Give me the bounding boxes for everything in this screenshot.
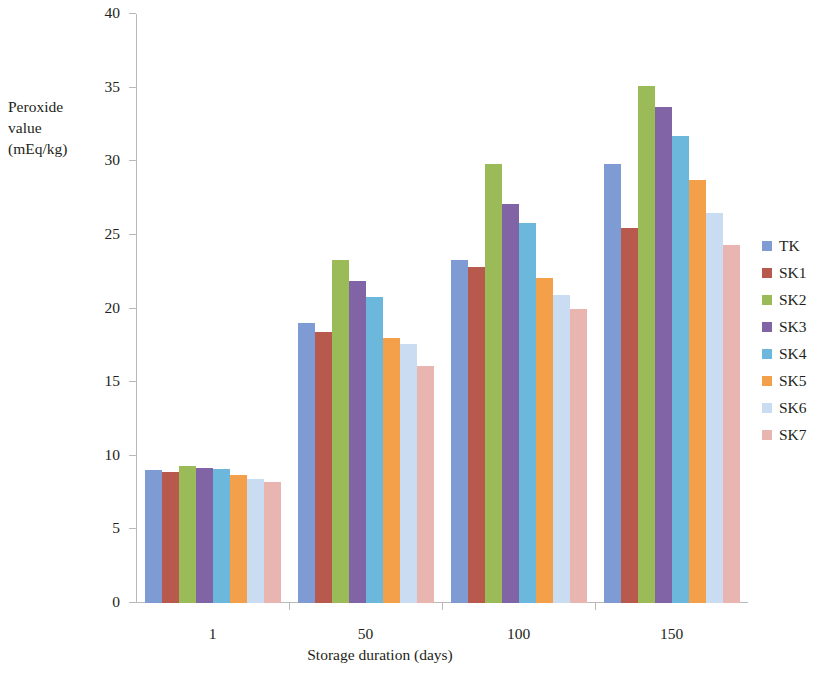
y-axis-title-line-3: (mEq/kg) [8,138,108,159]
bar-sk5-150 [689,180,706,603]
legend-item-sk1[interactable]: SK1 [762,259,836,286]
legend-item-sk4[interactable]: SK4 [762,340,836,367]
bar-sk6-50 [400,344,417,603]
bar-sk5-100 [536,278,553,603]
y-axis-tick: 30 [129,160,136,161]
y-axis-title-line-2: value [8,117,108,138]
plot-area: 0510152025303540 150100150 [136,14,748,603]
legend-item-sk7[interactable]: SK7 [762,421,836,448]
bar-tk-50 [298,323,315,603]
bar-sk6-150 [706,213,723,603]
y-axis-title: Peroxide value (mEq/kg) [8,96,108,159]
legend-label: SK1 [779,264,807,281]
y-axis-tick: 15 [129,381,136,382]
legend-swatch-icon [762,376,772,386]
legend-label: SK6 [779,399,807,416]
bar-sk2-1 [179,466,196,603]
legend-swatch-icon [762,430,772,440]
x-axis-tick [595,603,596,610]
legend-item-tk[interactable]: TK [762,232,836,259]
y-axis-tick-label: 20 [105,298,121,317]
bar-sk4-1 [213,469,230,603]
y-axis-tick-label: 30 [105,150,121,169]
bar-sk2-100 [485,164,502,603]
bar-sk2-150 [638,86,655,603]
bar-sk3-50 [349,281,366,603]
bar-sk3-100 [502,204,519,603]
y-axis-tick-label: 40 [105,3,121,22]
y-axis-tick: 5 [129,528,136,529]
bar-sk3-1 [196,468,213,603]
y-axis-tick: 35 [129,87,136,88]
bar-sk3-150 [655,107,672,603]
x-axis-category-label: 150 [612,625,732,643]
y-axis-tick-label: 10 [105,445,121,464]
bar-sk4-100 [519,223,536,603]
bar-sk1-100 [468,267,485,603]
legend-item-sk6[interactable]: SK6 [762,394,836,421]
legend-item-sk3[interactable]: SK3 [762,313,836,340]
bar-sk5-50 [383,338,400,603]
x-axis-tick [289,603,290,610]
legend-label: SK5 [779,372,807,389]
legend-label: TK [779,237,800,254]
y-axis-tick: 10 [129,455,136,456]
bar-sk2-50 [332,260,349,603]
bar-sk6-100 [553,295,570,603]
y-axis-title-line-1: Peroxide [8,96,108,117]
bar-chart-figure: Peroxide value (mEq/kg) 0510152025303540… [0,0,836,673]
legend-label: SK3 [779,318,807,335]
x-axis-title: Storage duration (days) [0,646,760,664]
legend-swatch-icon [762,268,772,278]
x-axis-category-label: 1 [153,625,273,643]
y-axis-tick: 20 [129,308,136,309]
y-axis-tick: 25 [129,234,136,235]
legend-swatch-icon [762,322,772,332]
legend-swatch-icon [762,241,772,251]
bar-group: 50 [298,14,434,603]
legend-swatch-icon [762,349,772,359]
legend-label: SK4 [779,345,807,362]
chart-legend: TKSK1SK2SK3SK4SK5SK6SK7 [762,232,836,448]
legend-item-sk5[interactable]: SK5 [762,367,836,394]
y-axis-tick-label: 35 [105,77,121,96]
bar-group: 1 [145,14,281,603]
bar-group: 100 [451,14,587,603]
bar-sk7-1 [264,482,281,603]
bar-sk4-50 [366,297,383,603]
bar-tk-1 [145,470,162,603]
y-axis-tick-label: 25 [105,224,121,243]
bar-sk4-150 [672,136,689,603]
y-axis-tick-label: 0 [112,592,120,611]
bar-sk5-1 [230,475,247,603]
y-axis-tick: 40 [129,13,136,14]
x-axis-category-label: 100 [459,625,579,643]
bar-sk7-100 [570,309,587,604]
y-axis-tick: 0 [129,602,136,603]
y-axis-tick-label: 5 [112,518,120,537]
y-axis-tick-label: 15 [105,371,121,390]
bar-sk1-50 [315,332,332,603]
bar-sk1-150 [621,228,638,603]
x-axis-tick [442,603,443,610]
bar-sk1-1 [162,472,179,603]
bar-sk6-1 [247,479,264,603]
legend-swatch-icon [762,295,772,305]
bar-tk-100 [451,260,468,603]
legend-swatch-icon [762,403,772,413]
legend-label: SK2 [779,291,807,308]
bar-group: 150 [604,14,740,603]
bar-sk7-150 [723,245,740,603]
bar-tk-150 [604,164,621,603]
x-axis-category-label: 50 [306,625,426,643]
y-axis-line [136,14,137,603]
legend-label: SK7 [779,426,807,443]
legend-item-sk2[interactable]: SK2 [762,286,836,313]
bar-sk7-50 [417,366,434,603]
